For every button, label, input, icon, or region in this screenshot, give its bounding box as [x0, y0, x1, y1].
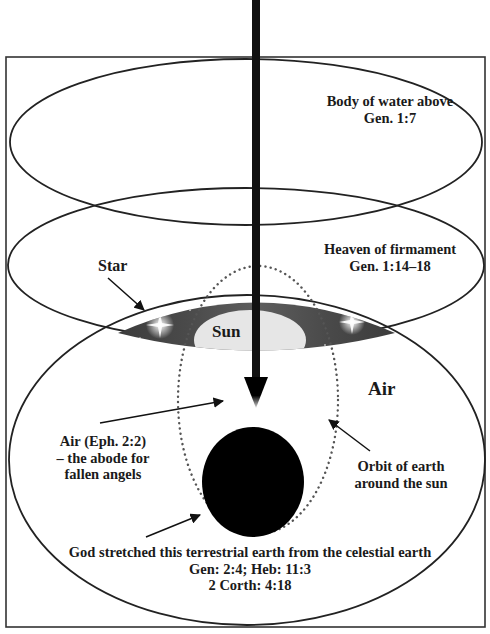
orbit-line-2: around the sun [342, 475, 460, 492]
earth-pointer-arrow [146, 515, 200, 537]
sun-dome-icon [194, 310, 306, 370]
waters-above-title: Body of water above [290, 93, 490, 110]
waters-above-reference: Gen. 1:7 [290, 110, 490, 127]
waters-above-ellipse [10, 59, 482, 225]
fallen-angels-label: Air (Eph. 2:2) – the abode for fallen an… [38, 433, 168, 483]
star-label: Star [98, 257, 127, 275]
firmament-reference: Gen. 1:14–18 [290, 258, 490, 275]
orbit-pointer-arrow [329, 420, 370, 451]
waters-above-label: Body of water above Gen. 1:7 [290, 93, 490, 126]
star-sparkle-icon [339, 309, 365, 335]
caption-line-2: Gen: 2:4; Heb: 11:3 [60, 561, 440, 578]
fallen-angels-pointer-arrow [100, 401, 223, 423]
firmament-label: Heaven of firmament Gen. 1:14–18 [290, 241, 490, 274]
terrestrial-earth-caption: God stretched this terrestrial earth fro… [60, 544, 440, 594]
orbit-label: Orbit of earth around the sun [342, 458, 460, 491]
caption-line-3: 2 Corth: 4:18 [60, 577, 440, 594]
fallen-angels-line-2: – the abode for [38, 450, 168, 467]
star-pointer-arrow [108, 278, 144, 310]
caption-line-1: God stretched this terrestrial earth fro… [60, 544, 440, 561]
sun-label: Sun [212, 322, 240, 342]
firmament-title: Heaven of firmament [290, 241, 490, 258]
air-label: Air [368, 378, 395, 400]
orbit-line-1: Orbit of earth [342, 458, 460, 475]
star-sparkle-icon [146, 311, 174, 339]
earth-circle-icon [202, 427, 304, 537]
fallen-angels-line-1: Air (Eph. 2:2) [38, 433, 168, 450]
fallen-angels-line-3: fallen angels [38, 466, 168, 483]
